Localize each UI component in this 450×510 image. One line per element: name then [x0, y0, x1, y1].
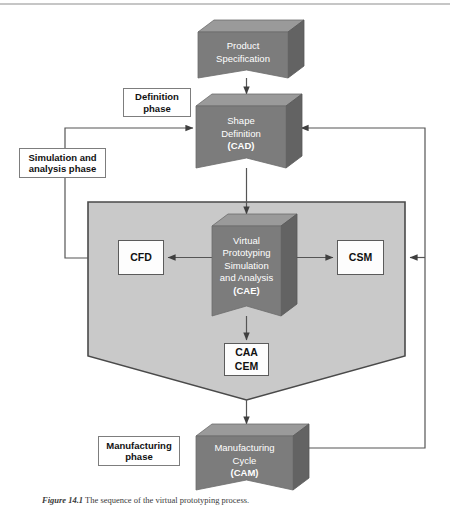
cem-label: CEM — [235, 360, 258, 373]
figure-canvas: Product Specification Shape Definition (… — [0, 0, 450, 510]
phase-definition-line-1: Definition — [135, 91, 179, 102]
manufacturing-cycle-side — [293, 424, 309, 490]
phase-manufacturing-line-1: Manufacturing — [106, 440, 171, 451]
shape-definition-top — [196, 94, 302, 106]
box-csm: CSM — [337, 240, 384, 275]
block-virtual-prototyping — [212, 214, 297, 316]
caa-label: CAA — [235, 346, 258, 359]
phase-simulation-line-1: Simulation and — [28, 152, 96, 163]
virtual-prototyping-side — [281, 214, 297, 316]
phase-simulation-line-2: analysis phase — [28, 163, 96, 174]
manufacturing-cycle-top — [196, 424, 309, 436]
phase-label-simulation-analysis: Simulation and analysis phase — [19, 148, 106, 178]
phase-label-manufacturing: Manufacturing phase — [98, 436, 180, 466]
shape-definition-side — [286, 94, 302, 168]
manufacturing-cycle-front — [196, 436, 293, 490]
shape-definition-front — [196, 106, 286, 168]
figure-caption-number: Figure 14.1 — [42, 495, 83, 505]
product-specification-front — [198, 32, 288, 78]
phase-manufacturing-line-2: phase — [106, 451, 171, 462]
phase-definition-line-2: phase — [135, 103, 179, 114]
virtual-prototyping-front — [212, 226, 281, 316]
phase-label-definition: Definition phase — [123, 88, 191, 117]
box-cfd: CFD — [118, 240, 164, 275]
cfd-label: CFD — [130, 251, 152, 264]
block-product-specification — [198, 20, 304, 78]
figure-caption-text: The sequence of the virtual prototyping … — [85, 495, 249, 505]
csm-label: CSM — [349, 251, 372, 264]
block-manufacturing-cycle — [196, 424, 309, 490]
block-shape-definition — [196, 94, 302, 168]
figure-caption: Figure 14.1 The sequence of the virtual … — [42, 495, 442, 505]
box-caa-cem: CAA CEM — [224, 343, 269, 376]
product-specification-top — [198, 20, 304, 32]
